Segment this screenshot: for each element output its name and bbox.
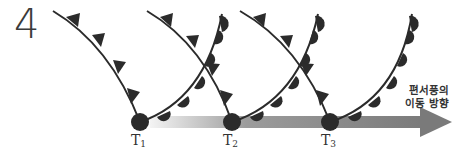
front-system-t3	[240, 11, 419, 131]
occlusion-point-t2	[223, 113, 241, 131]
occluded-front-diagram: 4	[0, 0, 462, 159]
occlusion-point-t3	[321, 113, 339, 131]
arrow-caption: 편서풍의 이동 방향	[405, 84, 449, 110]
occlusion-point-t1	[131, 113, 149, 131]
arrow-caption-line1: 편서풍의	[405, 84, 449, 97]
arrow-caption-line2: 이동 방향	[405, 97, 449, 110]
westerly-direction-arrow	[150, 107, 452, 137]
time-label-t3: T3	[321, 132, 336, 149]
front-system-t1	[53, 11, 229, 131]
time-label-t1: T1	[131, 132, 146, 149]
time-label-t2: T2	[223, 132, 238, 149]
front-system-t2	[147, 11, 325, 131]
